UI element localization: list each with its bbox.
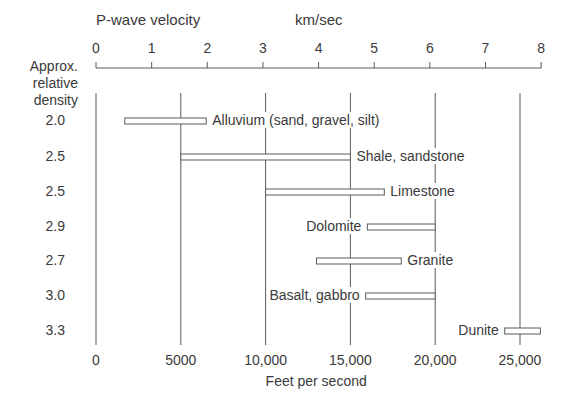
top-axis-tick-label: 5 xyxy=(370,40,378,56)
velocity-range-bar xyxy=(125,118,206,124)
density-header-line: relative xyxy=(33,75,78,91)
rock-type-label: Alluvium (sand, gravel, silt) xyxy=(211,112,380,128)
rock-type-label: Granite xyxy=(406,252,454,268)
density-header-line: density xyxy=(34,92,78,108)
rock-type-label: Limestone xyxy=(389,183,456,199)
rock-type-label: Dolomite xyxy=(305,218,362,234)
top-axis-tick-label: 2 xyxy=(203,40,211,56)
top-axis-unit-label: km/sec xyxy=(295,11,343,28)
density-value: 2.5 xyxy=(46,183,65,199)
top-axis-tick-label: 0 xyxy=(92,40,100,56)
velocity-range-bar xyxy=(366,293,436,299)
density-value: 3.3 xyxy=(46,322,65,338)
top-axis-tick-label: 3 xyxy=(259,40,267,56)
velocity-range-bar xyxy=(316,258,401,264)
top-axis-tick-label: 1 xyxy=(148,40,156,56)
density-value: 2.7 xyxy=(46,252,65,268)
velocity-range-bar xyxy=(181,154,351,160)
rock-type-label: Shale, sandstone xyxy=(355,148,465,164)
top-axis-tick-label: 6 xyxy=(426,40,434,56)
bottom-axis-tick-label: 25,000 xyxy=(499,352,542,368)
velocity-range-bar xyxy=(367,224,435,230)
velocity-range-bar xyxy=(266,189,385,195)
density-value: 2.0 xyxy=(46,112,65,128)
density-header-line: Approx. xyxy=(30,58,78,74)
bottom-axis-title: Feet per second xyxy=(266,373,367,389)
bottom-axis-tick-label: 0 xyxy=(92,352,100,368)
chart-canvas xyxy=(0,0,574,411)
rock-type-label: Dunite xyxy=(457,322,499,338)
velocity-range-bar xyxy=(505,328,541,334)
top-axis-tick-label: 7 xyxy=(482,40,490,56)
bottom-axis-tick-label: 10,000 xyxy=(244,352,287,368)
density-value: 2.9 xyxy=(46,218,65,234)
bottom-axis-tick-label: 20,000 xyxy=(414,352,457,368)
bottom-axis-tick-label: 15,000 xyxy=(329,352,372,368)
density-value: 3.0 xyxy=(46,287,65,303)
bottom-axis-tick-label: 5000 xyxy=(165,352,196,368)
top-axis-tick-label: 8 xyxy=(537,40,545,56)
rock-type-label: Basalt, gabbro xyxy=(268,287,360,303)
top-axis-tick-label: 4 xyxy=(315,40,323,56)
top-axis-title: P-wave velocity xyxy=(96,11,200,28)
density-value: 2.5 xyxy=(46,148,65,164)
